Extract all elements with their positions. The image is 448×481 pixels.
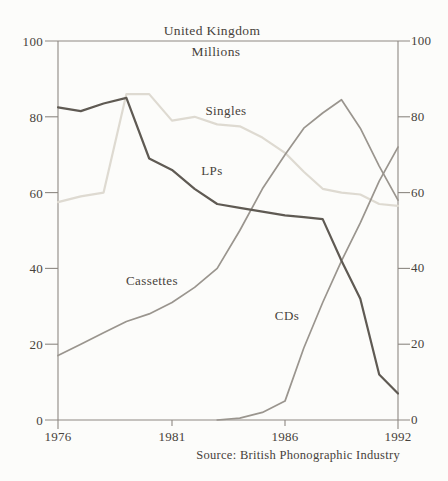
y-axis-label-left: 20 bbox=[12, 338, 43, 351]
source-note: Source: British Phonographic Industry bbox=[196, 448, 400, 463]
series-line-lps bbox=[58, 98, 398, 394]
y-axis-label-right: 80 bbox=[411, 110, 445, 123]
x-axis-label: 1986 bbox=[257, 430, 313, 443]
y-axis-label-right: 40 bbox=[411, 261, 445, 274]
x-axis-label: 1981 bbox=[144, 430, 200, 443]
y-axis-label-right: 0 bbox=[411, 413, 445, 426]
series-line-cds bbox=[217, 147, 398, 420]
x-axis-label: 1976 bbox=[30, 430, 86, 443]
plot-area bbox=[0, 0, 448, 481]
y-axis-label-left: 40 bbox=[12, 262, 43, 275]
y-axis-label-right: 60 bbox=[411, 186, 445, 199]
y-axis-label-left: 80 bbox=[12, 111, 43, 124]
series-label-singles: Singles bbox=[205, 103, 246, 119]
y-axis-label-left: 60 bbox=[12, 187, 43, 200]
y-axis-label-right: 100 bbox=[411, 34, 445, 47]
y-axis-label-left: 100 bbox=[12, 35, 43, 48]
series-line-cassettes bbox=[58, 100, 398, 356]
series-label-cassettes: Cassettes bbox=[126, 273, 178, 289]
series-label-lps: LPs bbox=[201, 163, 222, 179]
y-axis-label-right: 20 bbox=[411, 337, 445, 350]
y-axis-label-left: 0 bbox=[12, 414, 43, 427]
chart: United Kingdom Millions Singles Cassette… bbox=[0, 0, 448, 481]
x-axis-label: 1992 bbox=[370, 430, 426, 443]
series-label-cds: CDs bbox=[275, 308, 299, 324]
